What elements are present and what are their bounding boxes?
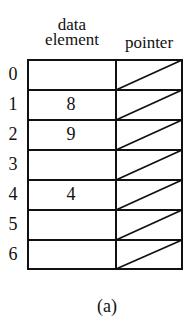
row-index: 5 — [6, 209, 20, 239]
array-table: 8 9 4 — [27, 59, 183, 270]
row-index: 3 — [6, 149, 20, 179]
data-cell: 4 — [27, 179, 115, 209]
table-row — [27, 209, 183, 239]
data-cell — [27, 239, 115, 269]
table-row — [27, 59, 183, 89]
header-pointer: pointer — [112, 35, 186, 50]
data-cell: 9 — [27, 119, 115, 149]
header-data-element: data element — [28, 17, 116, 47]
row-index: 1 — [6, 89, 20, 119]
table-row — [27, 239, 183, 269]
table-row: 9 — [27, 119, 183, 149]
table-row: 4 — [27, 179, 183, 209]
data-cell — [27, 59, 115, 89]
row-index: 0 — [6, 59, 20, 89]
header-data-line2: element — [28, 32, 116, 47]
table-row — [27, 149, 183, 179]
row-index: 4 — [6, 179, 20, 209]
row-index: 2 — [6, 119, 20, 149]
figure-caption: (a) — [0, 296, 192, 317]
data-cell — [27, 209, 115, 239]
row-index: 6 — [6, 239, 20, 269]
data-cell — [27, 149, 115, 179]
data-cell: 8 — [27, 89, 115, 119]
table-row: 8 — [27, 89, 183, 119]
